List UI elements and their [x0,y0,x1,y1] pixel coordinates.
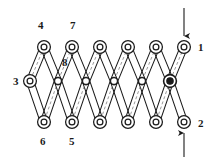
pivot-bottom-4[interactable] [122,116,135,129]
label-8: 8 [62,57,68,68]
pivot-mid-1[interactable] [55,78,62,85]
pivot-mid-filled[interactable] [164,75,177,88]
pivot-bottom-6-inner-ring [181,119,187,125]
pivot-bottom-2[interactable] [66,116,79,129]
pivot-bottom-4-inner-ring [125,119,131,125]
pivot-bottom-1[interactable] [38,116,51,129]
pivot-top-3-inner-ring [97,44,103,50]
pivot-bottom-5[interactable] [150,116,163,129]
label-1: 1 [198,42,204,53]
pivot-bottom-1-inner-ring [41,119,47,125]
pivot-top-3[interactable] [94,41,107,54]
label-4: 4 [38,20,44,31]
pivot-mid-filled-filled-core [167,78,173,84]
link-bars-group [27,46,188,124]
pivot-bottom-5-inner-ring [153,119,159,125]
pivot-top-1[interactable] [38,41,51,54]
mechanism-diagram [0,0,218,163]
pivot-top-6[interactable] [178,41,191,54]
pivot-mid-2[interactable] [83,78,90,85]
pivot-top-2-inner-ring [69,44,75,50]
mechanism-figure: 47831265 [0,0,218,163]
pivot-bottom-2-inner-ring [69,119,75,125]
label-6: 6 [40,136,46,147]
pivot-mid-3-ring [111,78,118,85]
pivot-bottom-3-inner-ring [97,119,103,125]
pivot-mid-4[interactable] [139,78,146,85]
pivot-top-1-inner-ring [41,44,47,50]
label-3: 3 [13,76,19,87]
pivot-mid-ground[interactable] [24,75,37,88]
pivot-mid-2-ring [83,78,90,85]
pivot-mid-ground-inner-ring [27,78,33,84]
pivot-bottom-6[interactable] [178,116,191,129]
label-2: 2 [198,118,204,129]
pivot-top-4[interactable] [122,41,135,54]
pivot-mid-3[interactable] [111,78,118,85]
pivot-top-5[interactable] [150,41,163,54]
pivot-top-5-inner-ring [153,44,159,50]
pivot-top-2[interactable] [66,41,79,54]
pivot-top-4-inner-ring [125,44,131,50]
label-5: 5 [69,136,75,147]
pivot-top-6-inner-ring [181,44,187,50]
pivot-mid-4-ring [139,78,146,85]
pivot-bottom-3[interactable] [94,116,107,129]
label-7: 7 [70,20,76,31]
pivot-mid-1-ring [55,78,62,85]
